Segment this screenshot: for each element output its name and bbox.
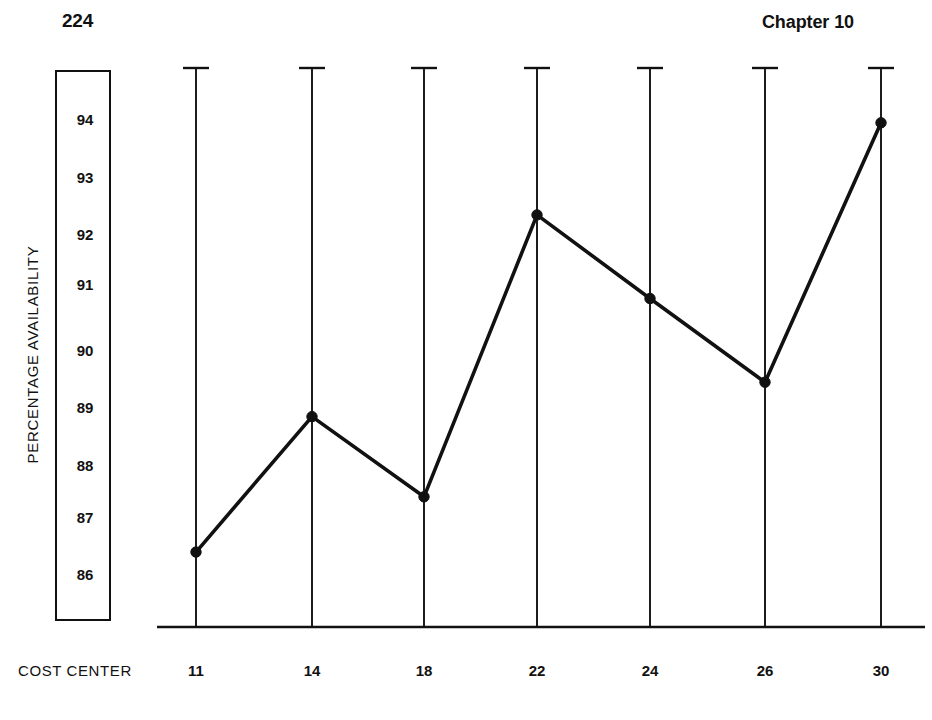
y-axis-tick-label: 92: [57, 226, 113, 243]
plot-area: [150, 60, 932, 630]
data-point-marker: [419, 492, 429, 502]
y-axis-label: PERCENTAGE AVAILABILITY: [24, 95, 41, 615]
data-markers-group: [191, 118, 886, 558]
data-point-marker: [876, 118, 886, 128]
gridlines-group: [183, 68, 894, 627]
y-axis-tick-label: 90: [57, 342, 113, 359]
data-series-group: [196, 123, 881, 552]
x-axis-tick-label: 14: [289, 662, 335, 679]
y-axis-tick-label: 93: [57, 169, 113, 186]
y-axis-tick-label: 88: [57, 457, 113, 474]
data-point-marker: [760, 377, 770, 387]
data-point-marker: [191, 547, 201, 557]
x-axis-tick-label: 18: [401, 662, 447, 679]
series-line: [196, 123, 881, 552]
y-axis-tick-label: 89: [57, 399, 113, 416]
x-axis-tick-label: 22: [514, 662, 560, 679]
y-axis-tick-label: 86: [57, 566, 113, 583]
y-axis-scale-box: 949392919089888786: [55, 70, 111, 621]
x-axis-label: COST CENTER: [18, 662, 132, 679]
line-chart-figure: PERCENTAGE AVAILABILITY 9493929190898887…: [0, 0, 932, 720]
y-axis-tick-label: 91: [57, 276, 113, 293]
y-axis-tick-label: 94: [57, 111, 113, 128]
data-point-marker: [645, 293, 655, 303]
plot-svg: [150, 60, 932, 630]
x-axis-tick-label: 11: [173, 662, 219, 679]
y-axis-tick-label: 87: [57, 509, 113, 526]
data-point-marker: [532, 210, 542, 220]
x-axis-tick-label: 26: [742, 662, 788, 679]
x-axis-tick-label: 24: [627, 662, 673, 679]
x-axis-row: COST CENTER 11141822242630: [0, 662, 932, 692]
x-axis-tick-label: 30: [858, 662, 904, 679]
data-point-marker: [307, 411, 317, 421]
